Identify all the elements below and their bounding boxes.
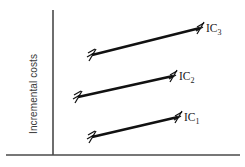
series-ic3-label: IC3: [206, 22, 222, 37]
series-ic2-line: [78, 76, 173, 97]
y-axis-title: Incremental costs: [28, 14, 39, 134]
series-ic1-label: IC1: [184, 111, 200, 126]
incremental-costs-chart: IC3 IC2: [0, 0, 245, 167]
series-ic1-line: [92, 117, 178, 137]
series-ic1: IC1: [87, 111, 200, 143]
series-ic2-label: IC2: [179, 70, 195, 85]
series-ic3-line: [92, 28, 200, 55]
series-ic3: IC3: [87, 22, 222, 61]
series-ic2: IC2: [73, 70, 195, 103]
chart-axes: [6, 10, 240, 155]
